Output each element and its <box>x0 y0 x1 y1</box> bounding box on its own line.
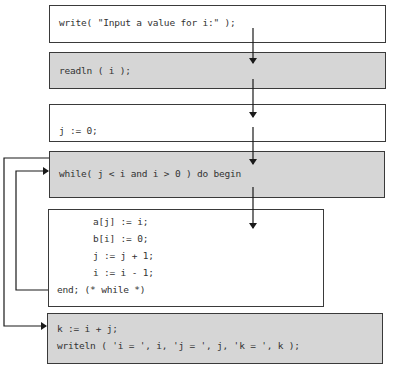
arrow-loop-back <box>16 171 48 290</box>
arrow-loop-exit <box>4 158 49 326</box>
flow-arrows-overlay <box>0 0 393 371</box>
control-flow-diagram: write( "Input a value for i:" ); readln … <box>0 0 393 371</box>
